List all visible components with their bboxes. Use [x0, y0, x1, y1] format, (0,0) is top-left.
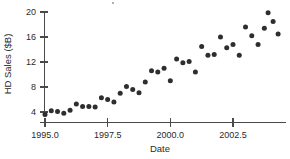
- y-tick-label: 4: [31, 107, 36, 117]
- x-axis-title: Date: [150, 143, 170, 154]
- y-axis-title: HD Sales ($B): [2, 34, 13, 95]
- scatter-plot: 48121620 1995.01997.52000.02002.5 HD Sal…: [0, 0, 290, 159]
- y-tick-label: 12: [26, 57, 36, 67]
- data-point: [266, 10, 271, 15]
- data-point: [86, 104, 91, 109]
- data-point: [180, 60, 185, 65]
- data-point: [68, 108, 73, 113]
- data-point: [61, 111, 66, 116]
- data-point: [212, 52, 217, 57]
- stray-mark: [112, 2, 114, 4]
- data-point: [168, 78, 173, 83]
- data-point: [256, 42, 261, 47]
- data-point: [187, 59, 192, 64]
- x-tick-label: 2000.0: [157, 130, 185, 140]
- y-tick-label: 8: [31, 82, 36, 92]
- x-tick-label: 2002.5: [219, 130, 247, 140]
- data-point: [105, 97, 110, 102]
- data-point: [218, 35, 223, 40]
- data-point: [49, 108, 54, 113]
- data-point: [55, 109, 60, 114]
- y-tick-label: 16: [26, 32, 36, 42]
- data-point: [118, 91, 123, 96]
- data-point: [199, 44, 204, 49]
- data-point: [124, 84, 129, 89]
- data-point: [111, 100, 116, 105]
- x-axis: 1995.01997.52000.02002.5: [31, 118, 286, 140]
- data-point: [205, 53, 210, 58]
- data-point: [137, 90, 142, 95]
- data-point: [249, 33, 254, 38]
- data-point: [276, 31, 281, 36]
- x-axis-tick-labels: 1995.01997.52000.02002.5: [31, 130, 247, 140]
- data-point: [162, 66, 167, 71]
- data-point: [143, 80, 148, 85]
- y-axis-tick-labels: 48121620: [26, 7, 36, 117]
- data-point: [174, 56, 179, 61]
- chart-figure: 48121620 1995.01997.52000.02002.5 HD Sal…: [0, 0, 290, 159]
- data-point: [155, 70, 160, 75]
- data-point: [262, 26, 267, 31]
- data-point: [193, 70, 198, 75]
- x-tick-label: 1997.5: [94, 130, 122, 140]
- data-point: [224, 45, 229, 50]
- data-point: [237, 53, 242, 58]
- data-point: [43, 112, 48, 117]
- x-tick-label: 1995.0: [31, 130, 59, 140]
- y-axis: 48121620: [26, 7, 48, 117]
- data-point: [271, 19, 276, 24]
- data-point: [80, 104, 85, 109]
- data-point: [243, 25, 248, 30]
- data-point: [130, 87, 135, 92]
- data-point: [99, 95, 104, 100]
- data-point: [74, 101, 79, 106]
- data-point: [231, 42, 236, 47]
- data-point-group: [43, 10, 281, 117]
- data-point: [93, 105, 98, 110]
- y-tick-label: 20: [26, 7, 36, 17]
- data-point: [149, 68, 154, 73]
